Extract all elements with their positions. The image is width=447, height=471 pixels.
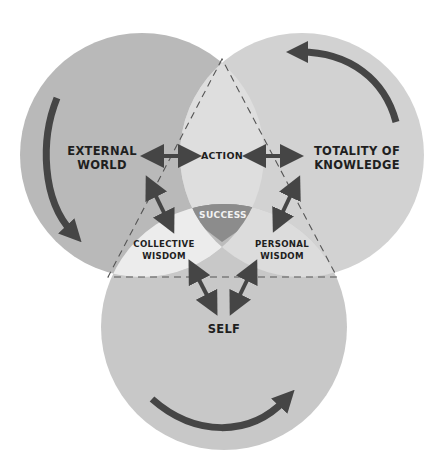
personal-wisdom-label-line2: WISDOM (260, 251, 304, 261)
personal-wisdom-label-line1: PERSONAL (255, 239, 309, 249)
collective-wisdom-label-line2: WISDOM (142, 251, 186, 261)
action-label: ACTION (201, 150, 243, 161)
collective-wisdom-label-line1: COLLECTIVE (133, 239, 194, 249)
totality-label-line1: TOTALITY OF (314, 144, 400, 158)
totality-label-line2: KNOWLEDGE (314, 158, 400, 172)
external-world-label-line2: WORLD (77, 158, 127, 172)
external-world-label-line1: EXTERNAL (67, 144, 137, 158)
self-label: SELF (208, 322, 241, 336)
success-label: SUCCESS (199, 210, 247, 220)
venn-diagram: EXTERNAL WORLD TOTALITY OF KNOWLEDGE ACT… (0, 0, 447, 471)
